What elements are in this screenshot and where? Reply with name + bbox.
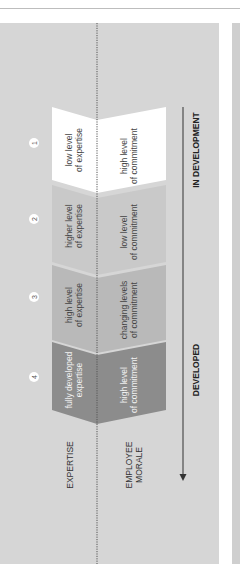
morale-row-label-line2: MORALE <box>134 447 144 483</box>
in-development-label: IN DEVELOPMENT <box>191 111 201 187</box>
stage-1-expertise-line1: low level <box>64 134 74 167</box>
stage-3-morale-line1: changing levels <box>119 281 129 340</box>
svg-text:4: 4 <box>31 375 38 379</box>
stage-3-expertise-line1: high level <box>64 287 74 323</box>
stage-3-expertise-line2: of expertise <box>74 283 84 327</box>
svg-text:2: 2 <box>31 217 38 221</box>
stage-3-number: 3 <box>29 292 39 302</box>
stage-4-number: 4 <box>29 372 39 382</box>
stage-2-expertise-line2: of expertise <box>74 204 84 248</box>
svg-text:1: 1 <box>31 141 38 145</box>
stage-4-expertise-line1: fully developed <box>64 351 74 408</box>
stage-1-morale-line2: of commitment <box>129 128 139 184</box>
stage-1-morale-line1: high level <box>119 138 129 174</box>
stage-4-expertise-line2: expertise <box>74 362 84 397</box>
stage-1-number: 1 <box>29 138 39 148</box>
stage-3-morale-line2: of commitment <box>129 282 139 338</box>
stage-2-morale-line1: low level <box>119 216 129 249</box>
stage-4-morale-line1: high level <box>119 367 129 403</box>
arrow-head-icon <box>180 474 187 481</box>
svg-text:3: 3 <box>31 295 38 299</box>
stage-2-number: 2 <box>29 214 39 224</box>
stage-2-expertise-line1: higher level <box>64 204 74 248</box>
expertise-row-label: EXPERTISE <box>65 441 75 489</box>
stage-2-morale-line2: of commitment <box>129 204 139 260</box>
development-stages-diagram: 1 2 3 4 low level of expertise high leve… <box>0 0 240 582</box>
stage-4-morale-line2: of commitment <box>129 357 139 413</box>
developed-label: DEVELOPED <box>191 344 201 396</box>
stage-1-expertise-line2: of expertise <box>74 128 84 172</box>
morale-row-label-line1: EMPLOYEE <box>124 441 134 488</box>
